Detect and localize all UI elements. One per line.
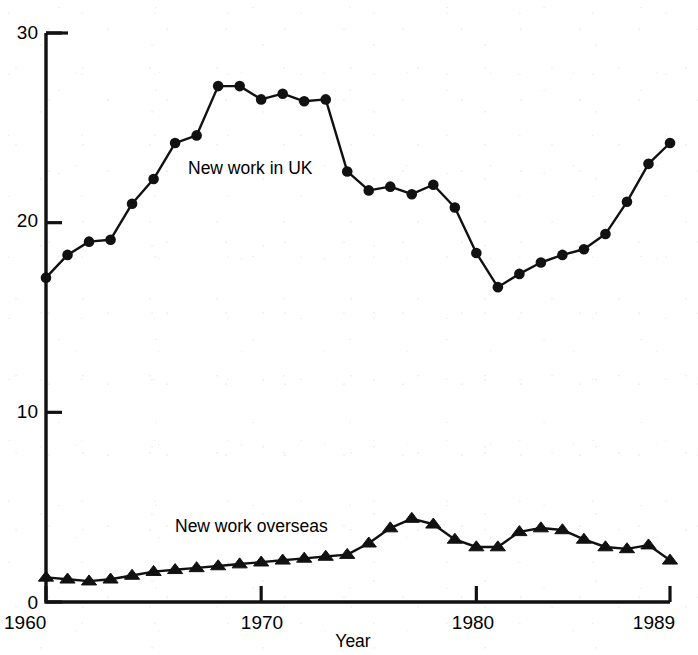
chart-container: 30 20 10 0 1960 1970 1980 1989 Year New …	[0, 0, 698, 655]
y-tick-label-10: 10	[2, 401, 38, 423]
y-tick-label-30: 30	[2, 22, 38, 44]
series-line-1	[46, 519, 670, 582]
x-axis-title: Year	[298, 631, 408, 652]
x-tick-label-1980: 1980	[431, 612, 515, 634]
x-tick-label-1989: 1989	[612, 612, 696, 634]
y-tick-label-0: 0	[2, 592, 38, 614]
y-tick-label-20: 20	[2, 210, 38, 232]
chart-plot-area	[0, 0, 698, 655]
series-line-0	[46, 86, 670, 287]
x-tick-label-1960: 1960	[4, 612, 88, 634]
series-annotation-overseas: New work overseas	[175, 516, 328, 537]
chart-series-group	[38, 81, 677, 585]
chart-axes	[46, 33, 670, 602]
series-annotation-uk: New work in UK	[188, 158, 312, 179]
x-tick-label-1970: 1970	[220, 612, 304, 634]
